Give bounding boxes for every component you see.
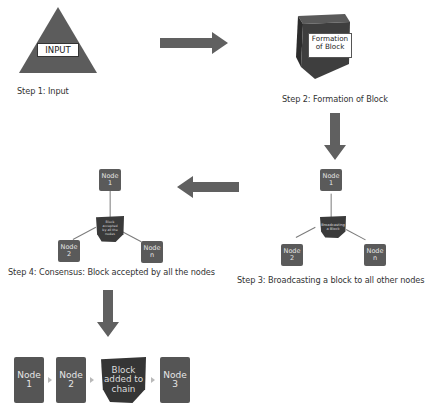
arrow-left-icon bbox=[176, 176, 240, 198]
step4-node-2: Node 2 bbox=[58, 240, 80, 262]
step3-node-1: Node 1 bbox=[320, 169, 342, 191]
step2-caption: Step 2: Formation of Block bbox=[282, 94, 388, 104]
step1-caption: Step 1: Input bbox=[17, 86, 69, 96]
node-text: 2 bbox=[290, 255, 294, 262]
node-text: 1 bbox=[108, 180, 112, 187]
node-text: 3 bbox=[172, 380, 178, 389]
arrow-down-icon bbox=[324, 113, 346, 161]
step3-caption: Step 3: Broadcasting a block to all othe… bbox=[237, 275, 424, 285]
block-text: nodes bbox=[105, 233, 115, 237]
node-text: 1 bbox=[329, 180, 333, 187]
formation-of-block-label: Formation of Block bbox=[308, 33, 352, 58]
chain-added-block: Block added to chain bbox=[101, 357, 146, 403]
chain-connector-icon bbox=[90, 377, 94, 383]
block-text: a Block bbox=[326, 227, 339, 231]
block-text: chain bbox=[112, 385, 136, 394]
node-text: 2 bbox=[68, 380, 74, 389]
chain-connector-icon bbox=[48, 377, 52, 383]
step3-broadcast-block: Broadcasting a Block bbox=[320, 216, 346, 238]
arrow-right-icon bbox=[160, 32, 230, 54]
step4-node-1: Node 1 bbox=[99, 169, 121, 191]
node-text: 2 bbox=[67, 251, 71, 258]
step4-accepted-block: Block accepted by all the nodes bbox=[96, 216, 124, 242]
chain-node-2: Node 2 bbox=[56, 357, 86, 403]
triangle-shape bbox=[17, 6, 99, 74]
chain-node-1: Node 1 bbox=[14, 357, 44, 403]
step4-caption: Step 4: Consensus: Block accepted by all… bbox=[8, 267, 215, 277]
node-text: 1 bbox=[26, 380, 32, 389]
step3-node-n: Node n bbox=[364, 244, 386, 266]
chain-connector-icon bbox=[151, 377, 155, 383]
input-label: INPUT bbox=[37, 43, 79, 57]
step4-node-n: Node n bbox=[141, 241, 163, 263]
label-line: of Block bbox=[309, 43, 351, 51]
node-text: n bbox=[373, 255, 377, 262]
node-text: n bbox=[150, 252, 154, 259]
step3-node-2: Node 2 bbox=[281, 244, 303, 266]
chain-node-3: Node 3 bbox=[160, 357, 190, 403]
arrow-down-icon bbox=[97, 290, 119, 338]
